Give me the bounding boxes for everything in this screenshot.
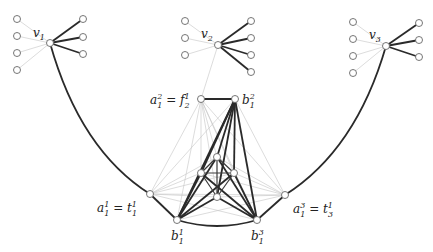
node-v1 (47, 40, 54, 47)
node-b11 (174, 217, 181, 224)
leaf-node (182, 52, 189, 59)
node-a11 (147, 191, 154, 198)
leaf-node (416, 20, 423, 27)
leaf-node (416, 37, 423, 44)
leaf-node (80, 16, 87, 23)
inner-node (231, 170, 238, 177)
label-v3: v3 (369, 28, 381, 44)
leaf-node (182, 35, 189, 42)
leaf-node (350, 70, 357, 77)
node-a13 (282, 192, 289, 199)
leaf-node (248, 69, 255, 76)
leaf-node (182, 18, 189, 25)
leaf-node (416, 54, 423, 61)
leaf-node (248, 52, 255, 59)
leaf-node (350, 36, 357, 43)
thick-edges (50, 19, 419, 226)
label-a11: a11 = t11 (97, 200, 137, 218)
inner-node (214, 194, 221, 201)
label-v2: v2 (201, 27, 213, 43)
label-b13: b31 (251, 228, 264, 246)
label-b12: b21 (242, 92, 255, 110)
leaf-node (350, 53, 357, 60)
node-b13 (254, 217, 261, 224)
leaf-node (350, 19, 357, 26)
label-a13: a31 = t13 (293, 201, 333, 219)
leaf-node (14, 50, 21, 57)
node-v2 (215, 42, 222, 49)
leaf-node (80, 51, 87, 58)
label-v1: v1 (33, 26, 45, 42)
leaf-node (248, 35, 255, 42)
leaf-node (14, 33, 21, 40)
leaf-node (248, 18, 255, 25)
label-b11: b11 (171, 228, 184, 246)
graph-diagram: v1 v2 v3 a21 = f12 b21 a11 = t11 a31 = t… (0, 0, 433, 252)
node-b12 (232, 96, 239, 103)
inner-node (198, 170, 205, 177)
leaf-node (14, 67, 21, 74)
label-a12: a21 = f12 (150, 92, 190, 110)
leaf-node (14, 16, 21, 23)
node-a12 (198, 96, 205, 103)
inner-node (214, 154, 221, 161)
leaf-node (80, 34, 87, 41)
thin-edges (17, 19, 386, 220)
node-v3 (383, 43, 390, 50)
